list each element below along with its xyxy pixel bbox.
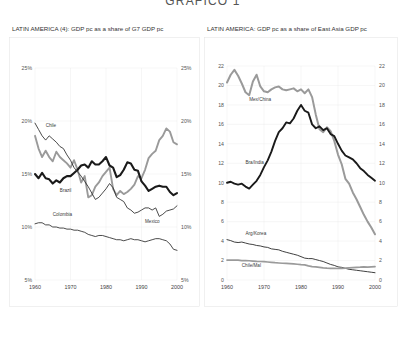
series-annotation: Chile/Mal xyxy=(242,263,261,268)
x-tick-label: 1980 xyxy=(295,284,307,290)
series-annotation: Colombia xyxy=(53,212,73,217)
chart-left-svg: 5%5%10%10%15%15%20%20%25%25%196019701980… xyxy=(8,36,201,308)
chart-panel-left: LATIN AMERICA (4): GDP pc as a share of … xyxy=(8,22,201,322)
y-tick-label-left: 20 xyxy=(218,82,224,88)
x-tick-label: 2000 xyxy=(171,284,183,290)
y-tick-label-right: 16 xyxy=(379,121,385,127)
y-tick-label-left: 22 xyxy=(218,63,224,69)
series-annotation: Mex/China xyxy=(249,97,271,102)
plot-frame xyxy=(10,38,200,307)
y-tick-label-right: 20 xyxy=(379,82,385,88)
y-tick-label-left: 20% xyxy=(22,118,33,124)
y-tick-label-left: 2 xyxy=(221,257,224,263)
series-annotation: Mexico xyxy=(145,219,160,224)
x-tick-label: 1970 xyxy=(65,284,77,290)
y-tick-label-left: 18 xyxy=(218,102,224,108)
series-annotation: Brazil xyxy=(60,188,72,193)
y-tick-label-right: 10% xyxy=(181,224,192,230)
chart-right-header: LATIN AMERICA: GDP pc as a share of East… xyxy=(203,22,399,36)
series-annotation: Arg/Korea xyxy=(246,231,267,236)
y-tick-label-right: 0 xyxy=(379,277,382,283)
chart-panel-right: LATIN AMERICA: GDP pc as a share of East… xyxy=(203,22,399,322)
y-tick-label-right: 25% xyxy=(181,65,192,71)
x-tick-label: 2000 xyxy=(369,284,381,290)
x-tick-label: 1990 xyxy=(332,284,344,290)
y-tick-label-left: 10 xyxy=(218,180,224,186)
y-tick-label-left: 0 xyxy=(221,277,224,283)
x-tick-label: 1980 xyxy=(100,284,112,290)
x-tick-label: 1990 xyxy=(136,284,148,290)
y-tick-label-right: 15% xyxy=(181,171,192,177)
y-tick-label-right: 6 xyxy=(379,218,382,224)
page-title: GRAFICO 1 xyxy=(0,0,406,8)
y-tick-label-right: 22 xyxy=(379,63,385,69)
y-tick-label-right: 14 xyxy=(379,141,385,147)
y-tick-label-right: 18 xyxy=(379,102,385,108)
y-tick-label-right: 10 xyxy=(379,180,385,186)
y-tick-label-left: 4 xyxy=(221,238,224,244)
chart-right-plot: 0022446688101012121414161618182020222219… xyxy=(203,36,399,308)
y-tick-label-right: 8 xyxy=(379,199,382,205)
y-tick-label-right: 4 xyxy=(379,238,382,244)
chart-right-svg: 0022446688101012121414161618182020222219… xyxy=(203,36,399,308)
series-annotation: Chile xyxy=(46,123,57,128)
y-tick-label-right: 2 xyxy=(379,257,382,263)
y-tick-label-left: 14 xyxy=(218,141,224,147)
y-tick-label-right: 5% xyxy=(181,277,189,283)
y-tick-label-right: 12 xyxy=(379,160,385,166)
y-tick-label-left: 15% xyxy=(22,171,33,177)
y-tick-label-left: 25% xyxy=(22,65,33,71)
x-tick-label: 1970 xyxy=(258,284,270,290)
y-tick-label-left: 5% xyxy=(25,277,33,283)
y-tick-label-left: 16 xyxy=(218,121,224,127)
y-tick-label-left: 8 xyxy=(221,199,224,205)
y-tick-label-left: 10% xyxy=(22,224,33,230)
y-tick-label-left: 6 xyxy=(221,218,224,224)
series-annotation: Bra/India xyxy=(246,160,265,165)
y-tick-label-right: 20% xyxy=(181,118,192,124)
chart-left-header: LATIN AMERICA (4): GDP pc as a share of … xyxy=(8,22,201,36)
chart-left-plot: 5%5%10%10%15%15%20%20%25%25%196019701980… xyxy=(8,36,201,308)
x-tick-label: 1960 xyxy=(29,284,41,290)
y-tick-label-left: 12 xyxy=(218,160,224,166)
x-tick-label: 1960 xyxy=(221,284,233,290)
